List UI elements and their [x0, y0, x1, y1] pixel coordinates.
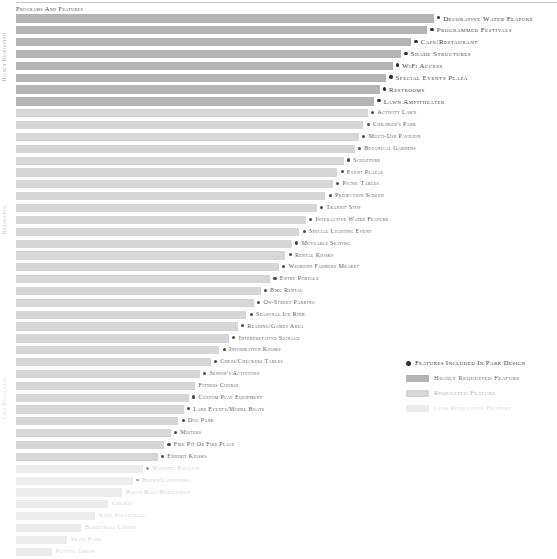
- chart-row: Shade Structures: [16, 49, 557, 61]
- chart-row: Special Lighting Event: [16, 226, 557, 238]
- included-dot-icon: [295, 241, 298, 244]
- included-dot-icon: [336, 182, 339, 185]
- bar: [16, 263, 279, 271]
- row-label: Lawn Ampitheater: [384, 97, 445, 109]
- included-dot-icon: [414, 40, 417, 43]
- row-label: Special Lighting Event: [309, 227, 372, 239]
- chart-row: Special Events Plaza: [16, 72, 557, 84]
- included-dot-icon: [203, 372, 206, 375]
- chart-row: Decorative Water Feature: [16, 13, 557, 25]
- row-label: Decorative Water Feature: [443, 14, 533, 26]
- axis-label-requested: Requested: [1, 180, 7, 260]
- row-label: Chess/Checkers Tables: [220, 357, 283, 369]
- bar: [16, 334, 229, 342]
- row-label: Reading/Games Area: [247, 322, 303, 334]
- row-label: Basketball Courts: [85, 523, 137, 535]
- included-dot-icon: [250, 313, 253, 316]
- swatch-requested: [406, 390, 429, 397]
- included-dot-icon: [167, 443, 170, 446]
- chart-row: Multi-use Pavilion: [16, 132, 557, 144]
- included-dot-icon: [182, 419, 185, 422]
- chart-row: Programmed Festivals: [16, 25, 557, 37]
- included-dot-icon: [430, 28, 433, 31]
- row-label: On-Street Parking: [264, 298, 315, 310]
- chart-row: Cafe/Restaurant: [16, 37, 557, 49]
- row-label: Moveable Seating: [301, 239, 350, 251]
- bar: [16, 358, 211, 366]
- bar: [16, 145, 355, 153]
- bar: [16, 453, 158, 461]
- chart-row: Dog Park: [16, 416, 557, 428]
- bar: [16, 109, 368, 117]
- bar: [16, 180, 333, 188]
- included-dot-icon: [309, 218, 312, 221]
- row-label: Exhibit Kiosks: [167, 452, 207, 464]
- included-dot-icon: [320, 206, 323, 209]
- chart-legend: Features Included in Park Design Highly …: [406, 357, 556, 417]
- bar: [16, 26, 427, 34]
- included-dot-icon: [377, 99, 380, 102]
- row-label: Entry Portals: [280, 274, 319, 286]
- bar: [16, 346, 219, 354]
- legend-label-highly-requested: Highly Requested Feature: [434, 374, 520, 381]
- bar: [16, 465, 143, 473]
- legend-item-highly-requested: Highly Requested Feature: [406, 372, 556, 387]
- included-dot-icon: [437, 16, 440, 19]
- bar: [16, 14, 434, 22]
- row-label: Berms/Landforms: [142, 476, 190, 488]
- chart-row: Sculpture: [16, 155, 557, 167]
- included-dot-icon: [289, 253, 292, 256]
- row-label: Interactive Water Feature: [315, 215, 388, 227]
- chart-row: Event Plazas: [16, 167, 557, 179]
- row-label: Shade Structures: [411, 49, 471, 61]
- bar: [16, 228, 299, 236]
- row-label: Bocce Ball/Horseshoes: [126, 488, 190, 500]
- included-dot-icon: [404, 52, 407, 55]
- bar: [16, 512, 95, 520]
- legend-item-included: Features Included in Park Design: [406, 357, 556, 372]
- bar: [16, 500, 108, 508]
- row-label: Rental Kiosks: [295, 251, 334, 263]
- bar: [16, 97, 374, 105]
- included-dot-icon: [367, 123, 370, 126]
- legend-item-requested: Requested Feature: [406, 387, 556, 402]
- bar: [16, 441, 164, 449]
- included-dot-icon: [358, 147, 361, 150]
- legend-label-requested: Requested Feature: [434, 389, 496, 396]
- chart-row: Moveable Seating: [16, 238, 557, 250]
- row-label: Special Events Plaza: [396, 73, 468, 85]
- chart-row: Putting Green: [16, 546, 557, 558]
- chart-row: Bike Rental: [16, 286, 557, 298]
- included-dot-icon: [406, 361, 411, 366]
- chart-row: Rental Kiosks: [16, 250, 557, 262]
- bar: [16, 322, 238, 330]
- included-dot-icon: [347, 158, 350, 161]
- row-label: Children's Park: [373, 120, 416, 132]
- row-label: Sculpture: [353, 156, 380, 168]
- row-label: Sand Volleyball: [99, 511, 146, 523]
- row-label: Fitness Course: [199, 381, 239, 393]
- bar: [16, 394, 189, 402]
- header-divider: [16, 2, 557, 3]
- bar: [16, 524, 81, 532]
- bar: [16, 121, 363, 129]
- included-dot-icon: [257, 301, 260, 304]
- included-dot-icon: [329, 194, 332, 197]
- row-label: Custom Play Equipment: [199, 393, 263, 405]
- bar: [16, 50, 401, 58]
- bar: [16, 417, 178, 425]
- bar: [16, 62, 393, 70]
- row-label: Restrooms: [389, 85, 425, 97]
- included-dot-icon: [241, 324, 244, 327]
- bar: [16, 311, 246, 319]
- chart-row: Botanical Gardens: [16, 143, 557, 155]
- bar: [16, 192, 325, 200]
- bar: [16, 240, 292, 248]
- bar: [16, 548, 52, 556]
- row-label: Interpretative Signage: [239, 334, 300, 346]
- row-label: Picnic Tables: [343, 179, 380, 191]
- included-dot-icon: [389, 75, 392, 78]
- included-dot-icon: [136, 479, 139, 482]
- row-label: Seasonal Ice Rink: [256, 310, 305, 322]
